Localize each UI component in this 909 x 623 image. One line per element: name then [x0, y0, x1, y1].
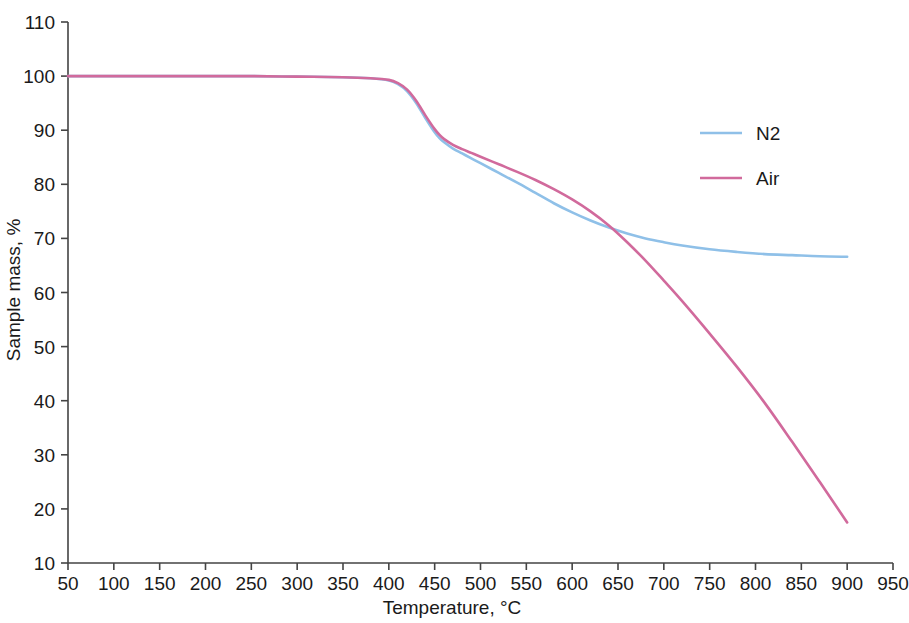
series-line-n2: [68, 76, 847, 257]
y-axis-title: Sample mass, %: [3, 219, 24, 362]
x-axis-ticks: [68, 563, 893, 570]
x-tick-label: 600: [556, 573, 588, 594]
y-tick-label: 20: [34, 499, 55, 520]
x-tick-label: 750: [694, 573, 726, 594]
y-tick-label: 60: [34, 283, 55, 304]
x-tick-label: 850: [785, 573, 817, 594]
x-tick-label: 700: [648, 573, 680, 594]
y-tick-label: 40: [34, 391, 55, 412]
legend: N2Air: [700, 123, 780, 189]
legend-label-n2: N2: [756, 123, 780, 144]
x-tick-label: 950: [877, 573, 909, 594]
tga-chart: 5010015020025030035040045050055060065070…: [0, 0, 909, 623]
y-axis-ticks: [61, 22, 68, 563]
x-tick-label: 350: [327, 573, 359, 594]
x-tick-label: 400: [373, 573, 405, 594]
series-line-air: [68, 76, 847, 522]
x-tick-label: 550: [510, 573, 542, 594]
data-series-group: [68, 76, 847, 522]
y-tick-label: 30: [34, 445, 55, 466]
x-tick-label: 300: [281, 573, 313, 594]
y-tick-label: 50: [34, 337, 55, 358]
x-tick-label: 650: [602, 573, 634, 594]
legend-label-air: Air: [756, 168, 780, 189]
x-tick-label: 50: [57, 573, 78, 594]
axis-lines: [68, 22, 893, 563]
x-tick-label: 800: [740, 573, 772, 594]
y-tick-label: 100: [23, 66, 55, 87]
y-tick-label: 70: [34, 228, 55, 249]
plot-area: 5010015020025030035040045050055060065070…: [23, 12, 909, 594]
x-tick-label: 450: [419, 573, 451, 594]
x-axis-title: Temperature, °C: [383, 597, 522, 618]
chart-canvas: 5010015020025030035040045050055060065070…: [0, 0, 909, 623]
x-tick-label: 500: [465, 573, 497, 594]
y-tick-label: 80: [34, 174, 55, 195]
x-tick-label: 200: [190, 573, 222, 594]
x-tick-label: 250: [235, 573, 267, 594]
y-tick-label: 90: [34, 120, 55, 141]
x-tick-label: 900: [831, 573, 863, 594]
y-axis-tick-labels: 102030405060708090100110: [23, 12, 55, 574]
y-tick-label: 110: [25, 12, 55, 33]
x-tick-label: 150: [144, 573, 176, 594]
x-axis-tick-labels: 5010015020025030035040045050055060065070…: [57, 573, 908, 594]
x-tick-label: 100: [98, 573, 130, 594]
y-tick-label: 10: [34, 553, 55, 574]
